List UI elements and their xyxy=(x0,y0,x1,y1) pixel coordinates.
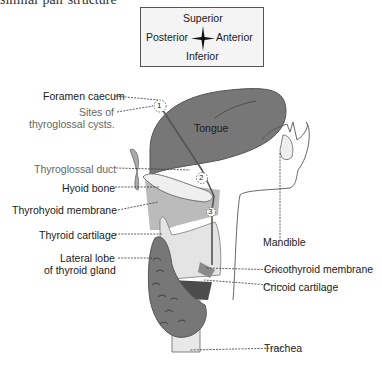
label-thyroglossal-duct: Thyroglossal duct xyxy=(34,163,116,175)
label-cricoid-cartilage: Cricoid cartilage xyxy=(263,281,338,293)
label-thyroid-cartilage: Thyroid cartilage xyxy=(39,229,117,241)
label-hyoid-bone: Hyoid bone xyxy=(62,182,115,194)
cyst-site-3: 3 xyxy=(208,206,212,218)
label-tongue: Tongue xyxy=(194,122,228,134)
label-thyroglossal-cysts: thyroglossal cysts. xyxy=(29,118,115,130)
label-mandible: Mandible xyxy=(263,236,306,248)
cyst-site-1: 1 xyxy=(157,100,161,112)
label-of-thyroid-gland: of thyroid gland xyxy=(44,264,116,276)
label-thyrohyoid-membrane: Thyrohyoid membrane xyxy=(12,204,117,216)
label-trachea: Trachea xyxy=(264,342,302,354)
label-sites-of: Sites of xyxy=(79,106,114,118)
label-cricothyroid-membrane: Cricothyroid membrane xyxy=(264,263,373,275)
label-lateral-lobe: Lateral lobe xyxy=(60,252,115,264)
cyst-site-2: 2 xyxy=(199,172,203,184)
label-foramen-caecum: Foramen caecum xyxy=(43,90,125,102)
anatomy-illustration xyxy=(0,0,382,371)
